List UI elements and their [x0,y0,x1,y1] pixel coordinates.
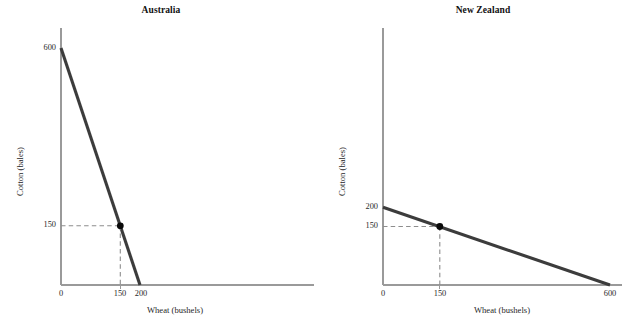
chart-panel-new-zealand: New Zealand 200 150 0 150 600 Wheat (bus… [322,0,644,332]
x-tick-label-600-new-zealand: 600 [597,290,623,298]
production-point-marker-australia [117,222,124,229]
y-axis-title-new-zealand: Cotton (bales) [338,147,347,196]
x-tick-label-0-australia: 0 [48,290,74,298]
plot-area-new-zealand [322,0,644,332]
x-tick-label-150-new-zealand: 150 [427,290,453,298]
y-tick-label-150-new-zealand: 150 [340,222,378,230]
y-tick-label-150-australia: 150 [18,221,56,229]
production-point-marker-new-zealand [436,223,443,230]
chart-panel-australia: Australia 600 150 0 150 200 Wheat (bushe… [0,0,322,332]
y-tick-label-600-australia: 600 [18,44,56,52]
ppf-line-australia [61,48,140,285]
ppf-line-new-zealand [383,207,610,285]
y-tick-label-200-new-zealand: 200 [340,203,378,211]
x-tick-label-0-new-zealand: 0 [370,290,396,298]
x-tick-label-200-australia: 200 [128,290,154,298]
x-axis-title-new-zealand: Wheat (bushels) [427,306,577,315]
y-axis-title-australia: Cotton (bales) [16,147,25,196]
x-axis-title-australia: Wheat (bushels) [100,306,250,315]
